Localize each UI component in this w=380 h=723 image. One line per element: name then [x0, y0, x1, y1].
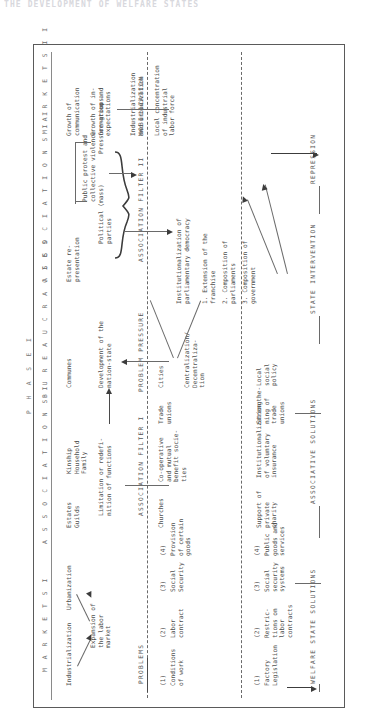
bigarrow-stem-right	[271, 153, 317, 154]
wss-num-2: (2)	[253, 618, 261, 638]
band-rule-state-left	[319, 316, 320, 344]
column-header-markets-1: M A R K E T S I	[41, 576, 49, 672]
assoc-solution-1: Support of private charity	[255, 472, 278, 528]
label-composition-parliaments: 2. Composition of parliaments	[221, 184, 236, 304]
label-trade-unions: Trade unions	[157, 374, 172, 424]
wss-num-1: (1)	[253, 666, 261, 686]
band-repression: REPRESSION	[309, 134, 317, 184]
label-kinship-household-family: Kinship Household Family	[65, 414, 88, 474]
bigarrow-head-left	[311, 686, 317, 692]
column-header-markets-2: M A R K E T S I I	[41, 25, 49, 134]
figure-page: THE DEVELOPMENT OF WELFARE STATES P H A …	[0, 0, 380, 723]
problem-num-3: (3)	[159, 572, 167, 592]
wss-text-1: Factory Legislation	[263, 630, 278, 686]
band-associative-solutions: ASSOCIATIVE SOLUTIONS	[309, 398, 317, 504]
label-extension-franchise: 1. Extension of the franchise	[201, 184, 216, 304]
protest-down-stem	[109, 173, 133, 174]
problem-text-1: Conditions of work	[169, 632, 184, 686]
problem-text-2: Labor contract	[169, 584, 184, 638]
label-development-nation-state: Development of the nation-state	[97, 278, 112, 388]
band-problems: PROBLEMS	[137, 644, 145, 684]
wss-text-2: Restric- tions on labor contracts	[263, 588, 293, 638]
band-rule-assoc-left	[319, 506, 320, 538]
spine-dashed-lower	[241, 52, 242, 698]
feeder-wss	[295, 583, 321, 584]
label-estate-representation: Estate re- presentation	[65, 222, 80, 282]
brace-association-filter-2	[111, 112, 133, 276]
wss-num-4: (4)	[253, 536, 261, 556]
column-header-associations-1: A S S O C I A T I O N S I	[41, 384, 49, 544]
label-public-protest: Public protest and collective violence	[81, 98, 96, 202]
label-industrialization: Industrialization	[65, 608, 73, 686]
bigarrow-head-right	[313, 152, 319, 158]
arrowhead-problem-pressure	[121, 359, 127, 365]
band-state-intervention: STATE INTERVENTION	[309, 224, 317, 314]
arrowhead-nation-state	[106, 388, 112, 394]
protest-elbow-h	[75, 142, 76, 204]
label-estates-guilds: Estates Guilds	[65, 468, 80, 528]
band-rule-wss-left	[319, 684, 320, 692]
label-communes: Communes	[65, 328, 73, 388]
label-urbanization: Urbanization	[65, 540, 73, 610]
arrowhead-filter-2	[167, 229, 173, 235]
tick-problems	[147, 658, 148, 692]
band-association-filter-1: ASSOCIATION FILTER I	[137, 415, 145, 516]
arrow-to-nation-state	[109, 392, 110, 424]
running-head: THE DEVELOPMENT OF WELFARE STATES	[4, 0, 334, 7]
band-mobilization: MOBILIZATION	[137, 76, 145, 136]
problem-num-2: (2)	[159, 618, 167, 638]
problem-num-4: (4)	[159, 536, 167, 556]
figure-canvas: P H A S E I M A R K E T S I A S S O C I …	[25, 38, 355, 714]
mobilization-stem	[117, 109, 169, 110]
header-underline	[51, 52, 52, 700]
arrowhead-protest	[131, 172, 137, 178]
assoc-solution-4: Local social policy	[255, 334, 278, 386]
bigarrow-stem-left	[287, 687, 313, 688]
label-political-mass-parties: Political (mass) parties	[97, 164, 112, 244]
protest-elbow-v	[75, 142, 91, 143]
band-association-filter-2: ASSOCIATION FILTER II	[137, 156, 145, 262]
spine-dashed-upper	[147, 52, 148, 698]
protest-elbow-v2	[75, 201, 87, 202]
problem-num-1: (1)	[159, 666, 167, 686]
label-institutionalization-parliamentary-democracy: Institutionalization of parliamentary de…	[175, 172, 190, 304]
rotated-figure-wrapper: P H A S E I M A R K E T S I A S S O C I …	[25, 38, 355, 714]
feeder-assoc	[295, 413, 321, 414]
band-rule-repression-left	[319, 186, 320, 214]
column-header-associations-2: A S S O C I A T I O N S I I	[41, 109, 49, 282]
problem-text-4: Provision of certain goods	[169, 502, 192, 556]
label-growth-communication: Growth of communication	[65, 46, 80, 136]
wss-num-3: (3)	[253, 572, 261, 592]
label-centralization-decentralization: Centralization/ Decentraliza- tion	[183, 310, 206, 388]
phase-header-1: P H A S E I	[25, 335, 33, 414]
band-problem-pressure: PROBLEM PRESSURE	[137, 312, 145, 392]
label-local-concentration: Local concentration of industrial labor …	[153, 40, 176, 136]
band-welfare-state-solutions: WELFARE STATE SOLUTIONS	[309, 568, 317, 684]
label-cooperative-mutual: Co-operative and mutual benefit socie- t…	[157, 416, 187, 482]
